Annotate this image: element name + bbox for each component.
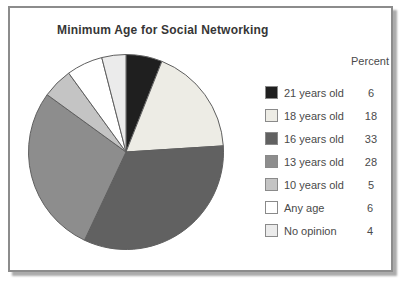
legend-row-10-years-old: 10 years old 5 [265, 173, 392, 196]
legend-value: 6 [349, 87, 393, 99]
legend-value: 5 [349, 179, 393, 191]
legend-row-any-age: Any age 6 [265, 196, 392, 219]
legend-swatch [265, 224, 278, 237]
legend-row-no-opinion: No opinion 4 [265, 219, 392, 242]
legend-swatch [265, 201, 278, 214]
legend-swatch [265, 178, 278, 191]
legend-swatch [265, 86, 278, 99]
legend-row-18-years-old: 18 years old 18 [265, 104, 392, 127]
legend-value: 4 [348, 225, 392, 237]
legend-value: 18 [349, 110, 393, 122]
legend-row-13-years-old: 13 years old 28 [265, 150, 392, 173]
page: Minimum Age for Social Networking Percen… [0, 0, 402, 285]
legend-label: 16 years old [284, 133, 344, 145]
legend-label: 21 years old [284, 87, 344, 99]
legend-value: 28 [349, 156, 393, 168]
legend-row-16-years-old: 16 years old 33 [265, 127, 392, 150]
chart-title: Minimum Age for Social Networking [57, 23, 269, 37]
pie-chart [26, 52, 226, 252]
legend-swatch [265, 155, 278, 168]
legend-label: No opinion [284, 225, 343, 237]
legend-header-row: Percent [265, 52, 392, 81]
legend-value: 6 [348, 202, 392, 214]
legend-value-header: Percent [348, 55, 392, 67]
legend: Percent 21 years old 6 18 years old 18 1… [265, 52, 392, 242]
legend-label: Any age [284, 202, 343, 214]
legend-row-21-years-old: 21 years old 6 [265, 81, 392, 104]
legend-label: 13 years old [284, 156, 344, 168]
legend-swatch [265, 132, 278, 145]
legend-label: 18 years old [284, 110, 344, 122]
legend-value: 33 [349, 133, 393, 145]
pie-area [26, 52, 226, 252]
legend-swatch [265, 109, 278, 122]
legend-label: 10 years old [284, 179, 344, 191]
chart-card: Minimum Age for Social Networking Percen… [8, 6, 393, 272]
